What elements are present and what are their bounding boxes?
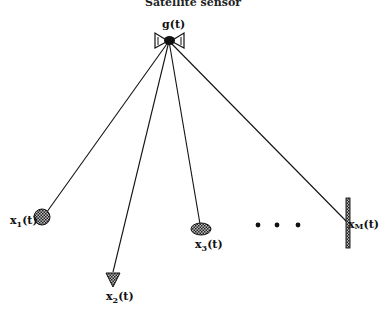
ellipse-shaded-icon	[191, 223, 211, 235]
hub-label: g(t)	[162, 18, 185, 31]
ellipsis-dots	[256, 223, 301, 228]
link-xM	[169, 41, 347, 222]
node-label-x3: x3(t)	[195, 238, 223, 253]
node-label-xM: xM(t)	[348, 218, 379, 231]
node-label-x1: x1(t)	[10, 214, 38, 229]
link-x1	[44, 41, 169, 216]
diagram: Satellite sensor g(t) x1(t) x2(t) x3(t) …	[0, 0, 386, 317]
link-x2	[113, 41, 169, 272]
node-label-x2: x2(t)	[106, 290, 134, 305]
triangle-shaded-icon	[106, 273, 120, 287]
diagram-title: Satellite sensor	[145, 0, 241, 9]
